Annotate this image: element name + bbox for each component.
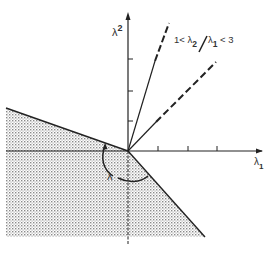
- region-label: λ: [107, 170, 113, 182]
- x-axis-arrow-icon: [256, 149, 263, 154]
- ratio-annotation-right: λ1 < 3: [208, 34, 234, 49]
- diagram-canvas: λ2 λ1 λ 1< λ2 λ1 < 3: [0, 0, 273, 253]
- shallow-ray-dashed: [156, 62, 216, 122]
- eigenvalue-diagram: λ2 λ1 λ 1< λ2 λ1 < 3: [0, 0, 273, 253]
- shaded-region: [6, 108, 205, 237]
- ratio-slash: [199, 36, 207, 52]
- steep-ray-dashed: [155, 23, 169, 61]
- y-axis-label: λ2: [112, 23, 123, 38]
- y-axis-arrow-icon: [126, 12, 131, 20]
- x-axis-label: λ1: [254, 156, 264, 171]
- ratio-annotation: 1< λ2: [174, 34, 197, 49]
